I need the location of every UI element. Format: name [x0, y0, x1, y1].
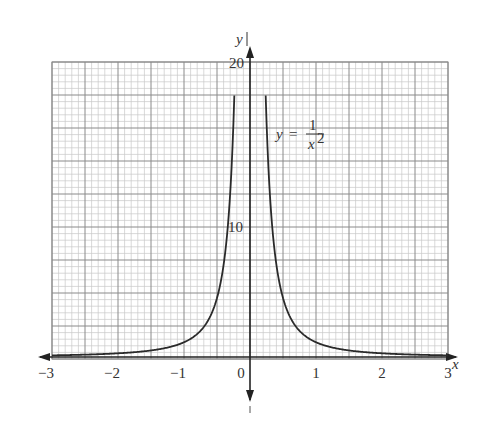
svg-text:y: y	[274, 126, 283, 142]
chart-canvas: −3−2−10123 10 20 y x y = 1 x 2	[0, 0, 488, 433]
svg-text:1: 1	[309, 117, 317, 133]
x-axis-left-arrow-icon	[38, 353, 50, 361]
x-tick-labels: −3−2−10123	[38, 365, 452, 381]
x-tick-label: 2	[378, 365, 386, 381]
x-tick-label: −3	[38, 365, 54, 381]
svg-text:x: x	[307, 136, 315, 152]
svg-text:=: =	[289, 126, 297, 142]
y-tick-label-10: 10	[228, 219, 243, 235]
x-tick-label: −2	[104, 365, 120, 381]
y-axis-down-arrow-icon	[246, 390, 254, 402]
x-tick-label: 0	[237, 365, 245, 381]
y-axis-label: y	[234, 31, 243, 47]
x-tick-label: 3	[444, 365, 452, 381]
y-axis	[246, 46, 254, 413]
x-axis-label: x	[451, 356, 459, 372]
y-axis-up-arrow-icon	[246, 46, 254, 58]
x-tick-label: 1	[312, 365, 320, 381]
x-tick-label: −1	[170, 365, 186, 381]
svg-text:2: 2	[317, 130, 325, 146]
y-tick-label-20: 20	[229, 55, 244, 71]
